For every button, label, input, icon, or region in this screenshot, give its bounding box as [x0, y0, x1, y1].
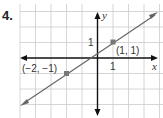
y-axis-up-arrow-icon: [95, 12, 101, 19]
x-tick-label: 1: [110, 61, 116, 72]
plotted-line: [20, 12, 158, 106]
y-tick-label: 1: [88, 37, 94, 48]
point-1-1: [111, 40, 116, 45]
y-axis: [95, 12, 101, 116]
point-neg2-neg1: [64, 71, 69, 76]
y-axis-down-arrow-icon: [95, 109, 101, 116]
grid: [20, 4, 163, 118]
x-axis-label: x: [151, 60, 157, 72]
x-axis-left-arrow-icon: [20, 55, 27, 61]
point-label-neg2-neg1: (−2, −1): [22, 63, 57, 74]
point-label-1-1: (1, 1): [116, 45, 139, 56]
coordinate-graph: y x 1 1 (1, 1) (−2, −1): [0, 0, 163, 118]
y-axis-label: y: [101, 9, 107, 21]
